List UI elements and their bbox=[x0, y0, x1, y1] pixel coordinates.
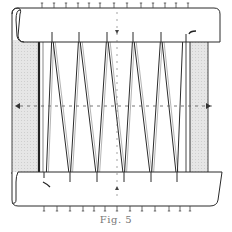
zigzag-warp-thread bbox=[46, 32, 183, 182]
bottom-tick-marks bbox=[43, 206, 191, 211]
right-shaded-bar bbox=[190, 40, 208, 174]
warp-diagram bbox=[0, 0, 232, 232]
top-tick-marks bbox=[41, 3, 189, 8]
figure-caption: Fig. 5 bbox=[0, 214, 232, 225]
left-shaded-bar bbox=[12, 40, 38, 174]
top-roller bbox=[12, 8, 220, 42]
